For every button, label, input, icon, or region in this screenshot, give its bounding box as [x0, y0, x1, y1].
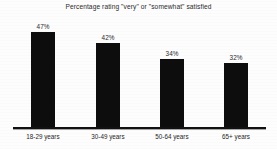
bar-value-label: 42% — [87, 34, 129, 42]
plot-area: 47% 42% 34% 32% — [0, 16, 277, 129]
x-axis-tick-labels: 18-29 years 30-49 years 50-64 years 65+ … — [0, 132, 277, 144]
category-label-2: 30-49 years — [73, 132, 143, 142]
bar-value-label: 47% — [22, 23, 64, 31]
bar-rect — [160, 59, 184, 129]
bar-value-label: 32% — [215, 54, 257, 62]
x-axis-line — [13, 127, 266, 129]
category-label-1: 18-29 years — [8, 132, 78, 142]
bar-chart: Percentage rating "very" or "somewhat" s… — [0, 0, 277, 149]
bar-value-label: 34% — [151, 50, 193, 58]
bar-rect — [31, 32, 55, 129]
category-label-4: 65+ years — [201, 132, 271, 142]
category-label-3: 50-64 years — [137, 132, 207, 142]
chart-title: Percentage rating "very" or "somewhat" s… — [0, 2, 277, 11]
bar-rect — [96, 43, 120, 129]
bar-rect — [224, 63, 248, 129]
